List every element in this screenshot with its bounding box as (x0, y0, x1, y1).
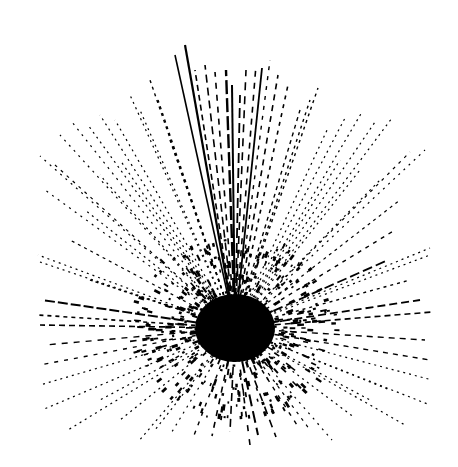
core-speckle (191, 246, 193, 249)
core-speckle (215, 301, 216, 303)
core-speckle (207, 251, 208, 255)
core-speckle (215, 257, 216, 259)
core-speckle (167, 350, 169, 351)
core-speckle (290, 395, 292, 397)
core-speckle (141, 351, 146, 352)
core-speckle (271, 268, 272, 270)
core-speckle (146, 365, 149, 366)
core-speckle (246, 248, 247, 253)
core-speckle (278, 334, 283, 335)
core-speckle (147, 311, 152, 312)
core-speckle (293, 320, 299, 321)
core-speckle (182, 352, 184, 353)
core-speckle (148, 359, 152, 361)
core-speckle (197, 305, 200, 307)
core-speckle (279, 343, 282, 344)
core-speckle (279, 347, 281, 348)
core-speckle (154, 338, 159, 339)
core-speckle (223, 404, 224, 410)
core-speckle (182, 273, 184, 275)
core-speckle (169, 299, 171, 300)
core-speckle (312, 354, 314, 355)
core-speckle (130, 340, 137, 341)
core-speckle (220, 269, 221, 272)
core-speckle (221, 407, 222, 413)
core-speckle (179, 297, 181, 298)
core-speckle (169, 349, 171, 350)
core-speckle (196, 347, 199, 349)
core-speckle (288, 310, 293, 312)
core-speckle (246, 288, 247, 291)
core-speckle (291, 323, 298, 324)
core-speckle (200, 369, 201, 371)
core-speckle (198, 316, 201, 317)
core-speckle (309, 268, 312, 271)
core-speckle (278, 287, 280, 289)
core-speckle (150, 339, 153, 340)
core-speckle (221, 369, 222, 371)
core-speckle (244, 253, 245, 257)
core-speckle (180, 316, 184, 317)
core-speckle (219, 414, 220, 419)
core-speckle (273, 256, 274, 258)
core-speckle (228, 369, 229, 375)
core-speckle (215, 265, 216, 267)
core-speckle (245, 281, 246, 284)
core-speckle (161, 339, 166, 340)
core-speckle (213, 243, 214, 247)
core-speckle (219, 257, 220, 260)
core-speckle (265, 393, 266, 396)
core-speckle (313, 308, 316, 309)
core-speckle (249, 288, 250, 292)
core-speckle (154, 275, 156, 277)
core-speckle (204, 301, 206, 303)
core-speckle (215, 394, 216, 399)
core-speckle (291, 336, 296, 337)
core-speckle (318, 322, 325, 323)
core-speckle (211, 261, 213, 266)
core-speckle (229, 261, 230, 268)
core-speckle (290, 280, 292, 282)
core-speckle (134, 301, 139, 302)
core-speckle (281, 333, 285, 334)
starburst-figure (0, 0, 458, 467)
core-speckle (289, 344, 293, 345)
core-speckle (268, 288, 270, 290)
core-speckle (264, 359, 266, 361)
core-speckle (134, 320, 141, 321)
core-speckle (256, 387, 257, 390)
core-speckle (172, 283, 174, 285)
core-speckle (303, 341, 308, 342)
core-speckle (250, 254, 251, 257)
core-speckle (185, 340, 191, 342)
core-speckle (308, 283, 310, 284)
core-speckle (305, 340, 310, 341)
core-speckle (262, 402, 263, 405)
core-speckle (269, 342, 273, 344)
core-speckle (257, 399, 258, 402)
core-speckle (315, 304, 317, 305)
core-speckle (198, 319, 201, 320)
core-speckle (213, 354, 215, 357)
core-speckle (173, 257, 175, 259)
core-speckle (190, 333, 197, 334)
core-speckle (180, 319, 184, 320)
core-speckle (246, 361, 248, 367)
core-speckle (276, 249, 277, 251)
core-speckle (291, 286, 293, 287)
core-speckle (283, 344, 287, 346)
core-speckle (307, 311, 311, 312)
core-speckle (258, 256, 259, 258)
core-blob (195, 294, 275, 362)
core-speckle (172, 345, 178, 347)
core-speckle (207, 416, 208, 418)
core-speckle (264, 411, 265, 416)
core-speckle (198, 343, 200, 344)
core-speckle (202, 382, 203, 384)
core-speckle (245, 392, 246, 397)
core-speckle (174, 364, 177, 366)
core-speckle (271, 357, 273, 359)
core-speckle (156, 347, 162, 349)
core-speckle (270, 400, 271, 402)
core-speckle (191, 314, 196, 316)
